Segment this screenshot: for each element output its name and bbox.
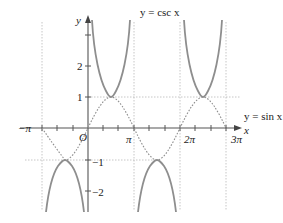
tick-label-y-2: 2 <box>77 60 83 72</box>
tick-label-pi: π <box>126 133 132 145</box>
tick-label-neg-pi: −π <box>18 122 31 134</box>
sin-label: y = sin x <box>244 110 283 122</box>
csc-branch-1 <box>92 20 130 97</box>
csc-branch-neg <box>46 160 84 212</box>
csc-label: y = csc x <box>140 6 180 18</box>
csc-branch-3 <box>184 20 222 97</box>
tick-label-y-neg-2: −2 <box>92 186 104 198</box>
labels: y = csc x y = sin x y x O −π π 2π 3π 2 1… <box>18 6 283 198</box>
tick-label-two-pi: 2π <box>184 133 196 145</box>
x-axis-arrow-icon <box>234 125 242 131</box>
origin-label: O <box>79 131 87 143</box>
x-axis-label: x <box>243 124 249 136</box>
csc-branch-2 <box>138 160 176 212</box>
y-axis-label: y <box>75 14 81 26</box>
csc-sin-chart: y = csc x y = sin x y x O −π π 2π 3π 2 1… <box>0 0 283 223</box>
tick-label-three-pi: 3π <box>230 133 243 145</box>
tick-label-y-1: 1 <box>77 91 83 103</box>
tick-label-y-neg-1: −1 <box>92 156 104 168</box>
y-axis-arrow-icon <box>85 15 91 23</box>
reference-grid <box>25 22 240 210</box>
axes <box>20 15 242 212</box>
